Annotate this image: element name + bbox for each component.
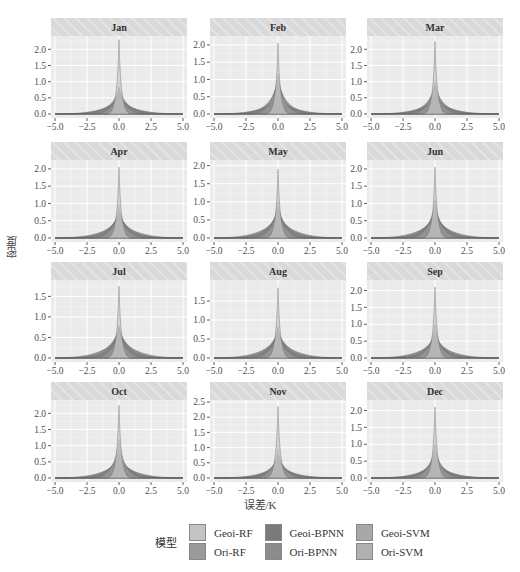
x-tick-label: −2.5 — [78, 366, 95, 376]
x-tick-label: −5.0 — [362, 122, 379, 132]
y-tick-label: 1.0 — [34, 441, 46, 451]
y-tick-label: 2.0 — [350, 286, 362, 296]
x-tick-label: −5.0 — [46, 486, 63, 496]
facet-strip-label: Jun — [427, 146, 444, 157]
facet-panel-oct: Oct−5.0−2.50.02.55.00.00.51.01.52.0 — [34, 382, 189, 496]
facet-panel-jul: Jul−5.0−2.50.02.55.00.00.51.01.5 — [34, 262, 189, 376]
y-tick-label: 1.5 — [193, 428, 205, 438]
x-tick-label: −2.5 — [394, 366, 411, 376]
y-tick-label: 0.5 — [34, 216, 46, 226]
y-tick-label: 0.5 — [350, 216, 362, 226]
legend-title: 模型 — [155, 534, 177, 550]
y-tick-label: 1.5 — [350, 303, 362, 313]
x-tick-label: 5.0 — [177, 366, 189, 376]
legend-item-geoi-bpnn: Geoi-BPNN — [265, 523, 344, 542]
x-tick-label: 0.0 — [272, 122, 284, 132]
x-tick-label: −5.0 — [46, 246, 63, 256]
x-tick-label: 2.5 — [304, 122, 316, 132]
facet-strip-label: Dec — [427, 386, 444, 397]
facet-strip-label: Apr — [110, 146, 128, 157]
x-tick-label: 5.0 — [493, 122, 505, 132]
x-tick-label: 2.5 — [145, 366, 157, 376]
x-tick-label: −5.0 — [46, 122, 63, 132]
x-tick-label: 2.5 — [145, 246, 157, 256]
y-tick-label: 1.5 — [350, 61, 362, 71]
y-tick-label: 0.0 — [34, 353, 46, 363]
facet-panel-mar: Mar−5.0−2.50.02.55.00.00.51.01.52.0 — [350, 18, 505, 132]
x-tick-label: 5.0 — [336, 366, 348, 376]
legend-label: Geoi-RF — [214, 527, 253, 539]
y-tick-label: 2.0 — [193, 412, 205, 422]
x-tick-label: 0.0 — [113, 122, 125, 132]
y-tick-label: 2.0 — [350, 45, 362, 55]
y-tick-label: 0.0 — [350, 233, 362, 243]
x-tick-label: 0.0 — [429, 122, 441, 132]
x-tick-label: 0.0 — [429, 486, 441, 496]
facet-strip-label: Nov — [269, 386, 286, 397]
x-tick-label: −5.0 — [205, 122, 222, 132]
x-tick-label: 0.0 — [113, 366, 125, 376]
legend-swatch-geoi-svm — [356, 524, 373, 541]
facet-strip-label: Oct — [111, 386, 127, 397]
x-tick-label: 2.5 — [304, 366, 316, 376]
y-tick-label: 1.0 — [350, 77, 362, 87]
y-tick-label: 0.5 — [193, 458, 205, 468]
y-tick-label: 0.5 — [34, 93, 46, 103]
y-tick-label: 1.0 — [34, 312, 46, 322]
legend-label: Geoi-BPNN — [290, 527, 344, 539]
x-tick-label: 5.0 — [336, 122, 348, 132]
x-tick-label: 0.0 — [113, 486, 125, 496]
y-axis-label: 密度 — [6, 236, 20, 258]
facet-strip-label: Jan — [111, 22, 127, 33]
x-tick-label: 2.5 — [145, 122, 157, 132]
y-tick-label: 0.5 — [350, 336, 362, 346]
y-tick-label: 1.5 — [34, 292, 46, 302]
legend-swatch-geoi-bpnn — [265, 524, 282, 541]
x-axis-label: 误差/K — [0, 496, 520, 512]
x-tick-label: −5.0 — [46, 366, 63, 376]
y-tick-label: 1.0 — [34, 77, 46, 87]
legend-swatch-ori-bpnn — [265, 543, 282, 560]
x-tick-label: 2.5 — [461, 486, 473, 496]
x-tick-label: 0.0 — [113, 246, 125, 256]
x-tick-label: 2.5 — [461, 366, 473, 376]
y-tick-label: 1.0 — [350, 319, 362, 329]
y-tick-label: 2.0 — [193, 161, 205, 171]
y-tick-label: 0.0 — [34, 109, 46, 119]
y-tick-label: 0.0 — [350, 109, 362, 119]
x-tick-label: −5.0 — [205, 246, 222, 256]
legend: 模型 Geoi-RF Ori-RF Geoi-BPNN Ori-BPNN — [155, 522, 442, 562]
facet-strip-label: May — [268, 146, 287, 157]
y-tick-label: 1.0 — [350, 439, 362, 449]
y-tick-label: 2.0 — [193, 40, 205, 50]
x-tick-label: 2.5 — [461, 122, 473, 132]
facet-panel-may: May−5.0−2.50.02.55.00.00.51.01.52.0 — [193, 142, 348, 256]
x-tick-label: 0.0 — [272, 366, 284, 376]
legend-label: Ori-SVM — [381, 546, 423, 558]
x-tick-label: −2.5 — [78, 246, 95, 256]
y-tick-label: 1.0 — [34, 199, 46, 209]
facet-panel-feb: Feb−5.0−2.50.02.55.00.00.51.01.52.0 — [193, 18, 348, 132]
faceted-density-figure: Jan−5.0−2.50.02.55.00.00.51.01.52.0Feb−5… — [0, 0, 520, 572]
y-tick-label: 1.5 — [34, 181, 46, 191]
x-tick-label: −2.5 — [237, 246, 254, 256]
x-tick-label: −2.5 — [237, 122, 254, 132]
x-tick-label: −2.5 — [78, 122, 95, 132]
y-tick-label: 0.0 — [193, 353, 205, 363]
y-tick-label: 1.5 — [193, 296, 205, 306]
legend-item-geoi-svm: Geoi-SVM — [356, 523, 430, 542]
y-tick-label: 0.5 — [193, 92, 205, 102]
y-tick-label: 1.0 — [193, 315, 205, 325]
x-tick-label: −5.0 — [362, 246, 379, 256]
facet-panel-jun: Jun−5.0−2.50.02.55.00.00.51.01.52.0 — [350, 142, 505, 256]
y-tick-label: 0.5 — [34, 457, 46, 467]
y-tick-label: 1.5 — [34, 61, 46, 71]
x-tick-label: −5.0 — [362, 366, 379, 376]
facet-panel-nov: Nov−5.0−2.50.02.55.00.00.51.01.52.02.5 — [193, 382, 348, 496]
y-tick-label: 2.0 — [350, 164, 362, 174]
facet-strip-label: Jul — [112, 266, 126, 277]
y-tick-label: 2.0 — [34, 164, 46, 174]
y-tick-label: 2.0 — [34, 409, 46, 419]
y-tick-label: 0.5 — [193, 334, 205, 344]
x-tick-label: −2.5 — [237, 486, 254, 496]
